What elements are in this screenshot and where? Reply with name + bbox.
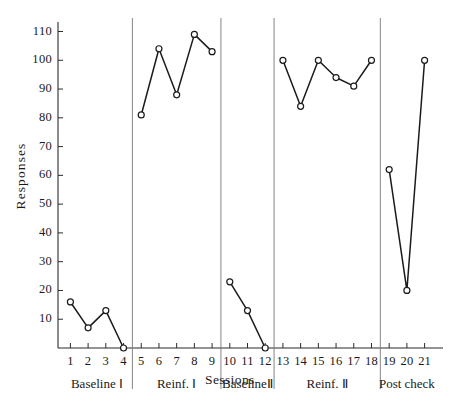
y-tick-label-110: 110 <box>18 24 52 39</box>
data-point-s4-x18 <box>368 57 374 63</box>
data-point-s3-x11 <box>245 308 251 314</box>
data-point-s1-x4 <box>121 345 127 351</box>
y-tick-label-100: 100 <box>18 52 52 67</box>
series-line-2 <box>141 34 212 115</box>
axes-group <box>58 22 443 348</box>
data-point-s4-x17 <box>351 83 357 89</box>
data-point-s3-x10 <box>227 279 233 285</box>
data-point-s4-x13 <box>280 57 286 63</box>
y-axis-title: Responses <box>13 128 29 224</box>
data-point-s4-x16 <box>333 75 339 81</box>
y-tick-label-20: 20 <box>18 282 52 297</box>
data-point-s5-x21 <box>422 57 428 63</box>
responses-by-session-chart: 102030405060708090100110 123456789101112… <box>0 0 455 407</box>
data-point-s2-x7 <box>174 92 180 98</box>
data-point-s1-x3 <box>103 308 109 314</box>
data-point-s5-x20 <box>404 287 410 293</box>
y-tick-label-90: 90 <box>18 81 52 96</box>
data-point-s1-x2 <box>85 325 91 331</box>
series-line-3 <box>230 282 265 348</box>
series-line-1 <box>70 302 123 348</box>
data-point-s2-x9 <box>209 49 215 55</box>
data-point-s1-x1 <box>67 299 73 305</box>
y-tick-label-30: 30 <box>18 254 52 269</box>
y-tick-label-40: 40 <box>18 225 52 240</box>
series-line-5 <box>389 60 424 290</box>
data-point-s2-x8 <box>191 31 197 37</box>
data-point-s2-x6 <box>156 46 162 52</box>
data-series-group <box>67 31 427 351</box>
plot-area <box>0 0 455 407</box>
phase-label-5: Post check <box>347 376 455 392</box>
x-tick-label-21: 21 <box>414 354 436 369</box>
x-axis-title: Sessions <box>205 372 255 388</box>
data-point-s2-x5 <box>138 112 144 118</box>
data-point-s3-x12 <box>262 345 268 351</box>
series-line-4 <box>283 60 372 106</box>
y-tick-label-80: 80 <box>18 110 52 125</box>
data-point-s4-x14 <box>298 103 304 109</box>
y-tick-label-10: 10 <box>18 311 52 326</box>
data-point-s5-x19 <box>386 167 392 173</box>
phase-separator-lines <box>132 18 380 389</box>
data-point-s4-x15 <box>315 57 321 63</box>
